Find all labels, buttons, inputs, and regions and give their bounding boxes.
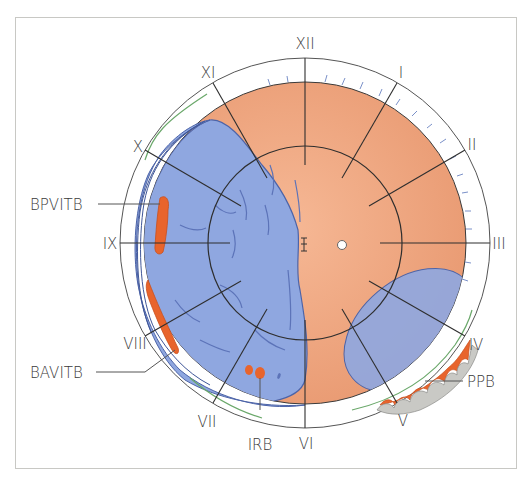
irb-hole-2 <box>255 367 265 379</box>
clock-label-x: X <box>133 138 143 156</box>
optic-disc-marker <box>338 241 347 250</box>
label-bavitb: BAVITB <box>30 364 83 382</box>
clock-label-ix: IX <box>103 235 118 253</box>
label-bpvitb: BPVITB <box>30 196 83 214</box>
clock-label-iv: IV <box>469 336 484 354</box>
clock-label-vii: VII <box>197 413 216 431</box>
label-irb: IRB <box>248 436 273 454</box>
clock-label-vi: VI <box>299 435 314 453</box>
fundus-diagram: XII I II III IV V VI VII VIII IX X XI BP… <box>0 0 530 486</box>
clock-label-v: V <box>398 412 408 430</box>
clock-label-ii: II <box>468 136 477 154</box>
clock-label-xi: XI <box>201 64 216 82</box>
clock-label-iii: III <box>492 235 505 253</box>
clock-label-i: I <box>399 64 403 82</box>
irb-hole-1 <box>245 365 253 375</box>
clock-label-xii: XII <box>295 35 314 53</box>
clock-label-viii: VIII <box>123 335 147 353</box>
label-ppb: PPB <box>467 373 495 391</box>
